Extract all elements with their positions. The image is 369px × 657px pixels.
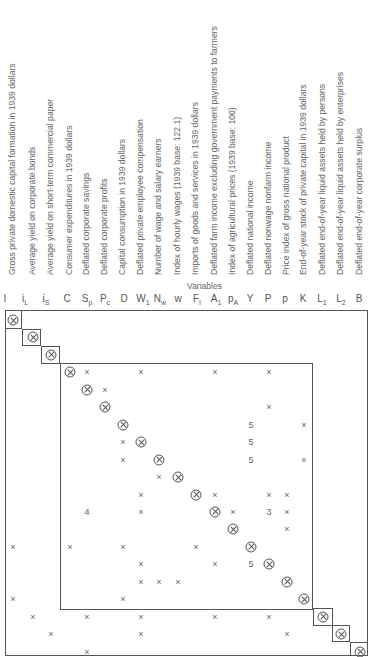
diagonal-marker-icon bbox=[173, 472, 184, 483]
variable-symbol: Sp bbox=[82, 293, 93, 306]
entry-x: × bbox=[120, 594, 125, 604]
diagonal-marker-icon bbox=[154, 454, 165, 465]
diagonal-marker-icon bbox=[355, 646, 366, 657]
diagonal-marker-icon bbox=[210, 506, 221, 517]
diagonal-marker-icon bbox=[246, 541, 257, 552]
variable-symbol: A1 bbox=[211, 293, 222, 306]
entry-x: × bbox=[120, 437, 125, 447]
entry-x: × bbox=[10, 542, 15, 552]
entry-x: × bbox=[175, 577, 180, 587]
entry-x: × bbox=[230, 507, 235, 517]
entry-x: × bbox=[48, 629, 53, 639]
entry-number: 3 bbox=[266, 507, 271, 517]
variable-symbol: K bbox=[300, 293, 307, 304]
entry-x: × bbox=[266, 612, 271, 622]
variable-symbol: P bbox=[265, 293, 272, 304]
variable-description: Gross private domestic capital formation… bbox=[7, 63, 17, 275]
entry-x: × bbox=[138, 559, 143, 569]
variable-symbol: Y bbox=[247, 293, 254, 304]
entry-x: × bbox=[284, 507, 289, 517]
variable-description: Deflated farm income excluding governmen… bbox=[209, 26, 219, 275]
variable-description: Imports of goods and services in 1939 do… bbox=[190, 102, 200, 275]
diagonal-marker-icon bbox=[228, 524, 239, 535]
variable-description: Deflated end-of-year liquid assets held … bbox=[335, 72, 345, 275]
entry-x: × bbox=[301, 420, 306, 430]
variable-symbol: I bbox=[4, 293, 7, 304]
variable-description: Deflated end-of-year liquid assets held … bbox=[317, 84, 327, 275]
entry-x: × bbox=[138, 507, 143, 517]
entry-x: × bbox=[30, 612, 35, 622]
entry-x: × bbox=[266, 490, 271, 500]
entry-x: × bbox=[138, 629, 143, 639]
diagonal-marker-icon bbox=[299, 594, 310, 605]
entry-x: × bbox=[10, 594, 15, 604]
variable-description: Price index of gross national product bbox=[281, 136, 291, 275]
diagram-title: Variables bbox=[0, 281, 369, 291]
entry-x: × bbox=[284, 629, 289, 639]
entry-number: 5 bbox=[248, 437, 253, 447]
entry-x: × bbox=[266, 367, 271, 377]
diagonal-marker-icon bbox=[82, 384, 93, 395]
diagonal-marker-icon bbox=[8, 315, 19, 326]
variable-symbol: Nw bbox=[154, 293, 166, 306]
entry-x: × bbox=[212, 559, 217, 569]
diagonal-marker-icon bbox=[28, 332, 39, 343]
variable-symbol: iS bbox=[43, 293, 50, 306]
variable-description: Index of agricultural prices (1939 base:… bbox=[227, 107, 237, 275]
entry-x: × bbox=[156, 472, 161, 482]
entry-number: 5 bbox=[248, 420, 253, 430]
variable-description: Deflated corporate savings bbox=[81, 173, 91, 275]
entry-x: × bbox=[156, 577, 161, 587]
entry-x: × bbox=[138, 490, 143, 500]
variable-symbol: W1 bbox=[136, 293, 149, 306]
entry-x: × bbox=[212, 490, 217, 500]
variable-symbol: L1 bbox=[317, 293, 326, 306]
entry-x: × bbox=[67, 542, 72, 552]
diagonal-marker-icon bbox=[318, 611, 329, 622]
diagonal-marker-icon bbox=[191, 489, 202, 500]
entry-x: × bbox=[284, 524, 289, 534]
variable-symbol: D bbox=[120, 293, 127, 304]
entry-number: 5 bbox=[248, 559, 253, 569]
variable-description: End-of-year stock of private capital in … bbox=[298, 84, 308, 275]
variable-description: Average yield on corporate bonds bbox=[27, 147, 37, 275]
diagonal-marker-icon bbox=[282, 576, 293, 587]
variable-description: Deflated national income bbox=[245, 180, 255, 275]
entry-x: × bbox=[84, 647, 89, 657]
entry-x: × bbox=[138, 577, 143, 587]
variable-symbol: pA bbox=[228, 293, 238, 306]
diagonal-marker-icon bbox=[118, 419, 129, 430]
entry-x: × bbox=[193, 542, 198, 552]
diagonal-marker-icon bbox=[46, 349, 57, 360]
variable-description: Consumer expenditures in 1939 dollars bbox=[64, 125, 74, 275]
variable-description: Number of wage and salary earners bbox=[153, 138, 163, 275]
entry-x: × bbox=[284, 490, 289, 500]
entry-number: 4 bbox=[84, 507, 89, 517]
variable-symbol: iL bbox=[22, 293, 28, 306]
variable-description: Deflated corporate profits bbox=[99, 179, 109, 276]
diagonal-marker-icon bbox=[100, 402, 111, 413]
entry-x: × bbox=[120, 542, 125, 552]
variable-descriptions: Gross private domestic capital formation… bbox=[0, 0, 369, 275]
block-main bbox=[60, 363, 313, 610]
variable-description: Capital consumption in 1939 dollars bbox=[117, 139, 127, 275]
entry-x: × bbox=[102, 385, 107, 395]
variable-description: Deflated private employee compensation bbox=[135, 119, 145, 275]
entry-x: × bbox=[120, 455, 125, 465]
diagonal-marker-icon bbox=[264, 559, 275, 570]
diagonal-marker-icon bbox=[136, 437, 147, 448]
variable-symbol: p bbox=[282, 293, 288, 304]
variable-description: Average yield on short-term commercial p… bbox=[45, 99, 55, 275]
variable-description: Index of hourly wages (1939 base: 122.1) bbox=[172, 117, 182, 275]
variable-symbol: L2 bbox=[336, 293, 345, 306]
diagonal-marker-icon bbox=[336, 629, 347, 640]
entry-x: × bbox=[84, 612, 89, 622]
entry-x: × bbox=[84, 367, 89, 377]
variable-symbol: Pc bbox=[100, 293, 110, 306]
entry-x: × bbox=[212, 367, 217, 377]
entry-x: × bbox=[138, 612, 143, 622]
variable-symbol: FI bbox=[193, 293, 201, 306]
variable-symbol: B bbox=[356, 293, 363, 304]
entry-x: × bbox=[301, 455, 306, 465]
variable-description: Deflated end-of-year corporate surplus bbox=[354, 128, 364, 275]
